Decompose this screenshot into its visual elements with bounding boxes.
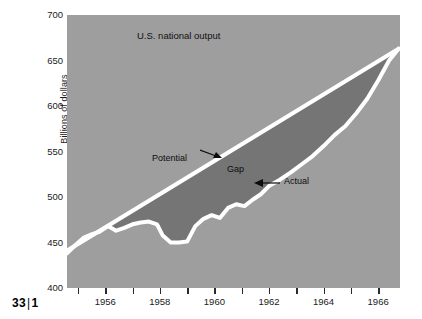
x-tick-label: 1964: [302, 297, 346, 307]
y-tick-label: 650: [29, 56, 63, 66]
x-tick-mark: [133, 288, 135, 294]
x-tick-mark: [324, 288, 326, 294]
figure-root: Billions of dollars 40045050055060065070…: [0, 0, 422, 319]
x-tick-mark: [105, 288, 107, 294]
arrow-left-icon: [254, 178, 282, 188]
figure-index-number: 1: [31, 296, 38, 310]
plot-area: U.S. national output Potential Gap Actua…: [67, 15, 400, 288]
x-tick-mark: [242, 288, 244, 294]
y-tick-label: 700: [29, 10, 63, 20]
annotation-potential: Potential: [152, 147, 187, 165]
y-tick-label: 500: [29, 192, 63, 202]
figure-chapter-number: 33: [12, 296, 26, 310]
x-tick-label: 1966: [356, 297, 400, 307]
x-tick-label: 1960: [192, 297, 236, 307]
figure-caption: 33|1: [12, 296, 38, 310]
annotation-actual-label: Actual: [284, 176, 309, 186]
y-tick-label: 400: [29, 283, 63, 293]
x-tick-label: 1962: [247, 297, 291, 307]
y-axis-ticks: 400450500550600650700: [27, 0, 63, 319]
y-tick-label: 550: [29, 147, 63, 157]
annotation-gap-label: Gap: [227, 164, 244, 174]
x-tick-mark: [187, 288, 189, 294]
chart-canvas: [67, 15, 400, 288]
x-tick-label: 1958: [138, 297, 182, 307]
y-tick-label: 600: [29, 101, 63, 111]
x-tick-mark: [269, 288, 271, 294]
x-tick-mark: [351, 288, 353, 294]
x-tick-mark: [78, 288, 80, 294]
x-tick-mark: [160, 288, 162, 294]
potential-output-line: [67, 49, 399, 251]
x-tick-mark: [296, 288, 298, 294]
arrow-right-icon: [200, 149, 226, 159]
chart-title: U.S. national output: [137, 30, 220, 41]
x-tick-label: 1956: [83, 297, 127, 307]
annotation-potential-label: Potential: [152, 153, 187, 163]
x-tick-mark: [378, 288, 380, 294]
x-tick-mark: [214, 288, 216, 294]
y-tick-label: 450: [29, 238, 63, 248]
